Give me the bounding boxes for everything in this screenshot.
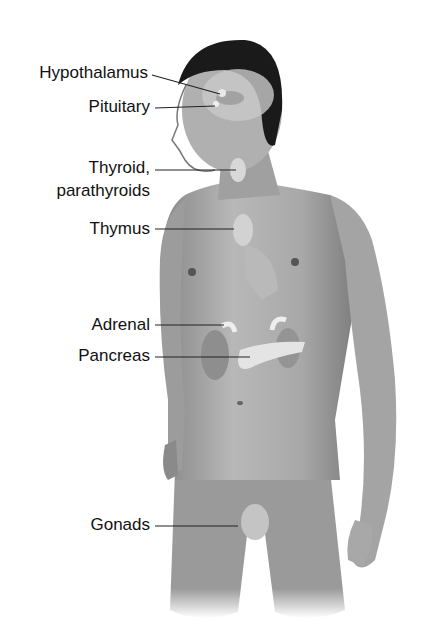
label-pancreas: Pancreas xyxy=(78,346,150,366)
label-parathyroids: parathyroids xyxy=(56,181,150,201)
label-gonads: Gonads xyxy=(90,515,150,535)
legs xyxy=(170,470,345,618)
torso xyxy=(165,180,360,480)
thymus-gland xyxy=(233,214,253,246)
label-hypothalamus: Hypothalamus xyxy=(39,63,148,83)
label-adrenal: Adrenal xyxy=(91,315,150,335)
label-thyroid: Thyroid, xyxy=(89,158,150,178)
label-thymus: Thymus xyxy=(90,219,150,239)
gonads-organ xyxy=(241,504,269,540)
human-figure-illustration xyxy=(0,0,433,643)
label-pituitary: Pituitary xyxy=(89,97,150,117)
hypothalamus-gland xyxy=(218,89,226,97)
